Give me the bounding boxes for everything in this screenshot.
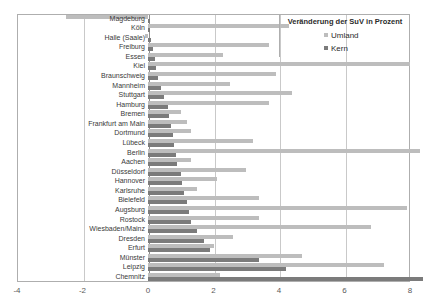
bar-kern (148, 143, 174, 147)
category-label: Kiel (133, 62, 145, 70)
x-tick-label: 6 (342, 286, 346, 295)
x-tick-label: 8 (408, 286, 412, 295)
x-axis: -4-202468 (0, 282, 424, 308)
category-label: Halle (Saale) (105, 34, 145, 42)
bar-kern (148, 76, 158, 80)
chart-container: MagdeburgKölnHalle (Saale)FreiburgEssenK… (0, 0, 424, 308)
bar-kern (148, 210, 189, 214)
bar-umland (148, 43, 269, 47)
bar-kern (148, 19, 150, 23)
x-tick-label: 0 (146, 286, 150, 295)
bar-kern (148, 220, 191, 224)
category-label: Augsburg (115, 206, 145, 214)
legend-item-kern[interactable]: Kern (324, 44, 348, 53)
category-axis-labels: MagdeburgKölnHalle (Saale)FreiburgEssenK… (0, 14, 148, 282)
x-tick-label: -4 (13, 286, 20, 295)
bar-kern (148, 258, 259, 262)
x-tick-label: 4 (277, 286, 281, 295)
category-label: Köln (131, 24, 145, 32)
category-label: Wiesbaden/Mainz (89, 225, 145, 233)
category-label: Karlsruhe (115, 187, 145, 195)
legend-item-umland[interactable]: Umland (324, 31, 359, 40)
bar-kern (148, 162, 177, 166)
bar-kern (148, 229, 197, 233)
bar-umland (148, 72, 276, 76)
category-label: Düsseldorf (112, 168, 145, 176)
bar-umland (148, 53, 223, 57)
x-tick-label: -2 (79, 286, 86, 295)
bar-kern (148, 153, 176, 157)
bar-kern (148, 105, 168, 109)
category-label: Leipzig (123, 263, 145, 271)
category-label: Münster (120, 254, 145, 262)
category-label: Essen (126, 53, 145, 61)
bar-kern (148, 133, 173, 137)
legend-label-umland: Umland (331, 31, 359, 40)
category-label: Aachen (121, 158, 145, 166)
legend-title: Veränderung der SuV in Prozent (279, 17, 411, 26)
category-label: Chemnitz (115, 273, 145, 281)
bar-kern (148, 95, 164, 99)
category-label: Stuttgart (119, 91, 145, 99)
bar-umland (148, 24, 289, 28)
bar-kern (148, 66, 156, 70)
bar-kern (148, 191, 184, 195)
legend-label-kern: Kern (331, 44, 348, 53)
bar-kern (148, 28, 150, 32)
bar-kern (148, 239, 204, 243)
bar-kern (148, 277, 423, 281)
category-label: Magdeburg (110, 15, 145, 23)
bar-kern (148, 124, 171, 128)
category-label: Hannover (115, 177, 145, 185)
legend: Veränderung der SuV in Prozent Umland Ke… (279, 14, 410, 57)
legend-swatch-umland (324, 33, 328, 37)
category-label: Berlin (127, 149, 145, 157)
category-label: Mannheim (112, 82, 145, 90)
legend-swatch-kern (324, 46, 328, 50)
category-label: Bielefeld (118, 196, 145, 204)
category-label: Freiburg (119, 43, 145, 51)
bar-kern (148, 114, 169, 118)
bar-kern (148, 248, 210, 252)
category-label: Lübeck (122, 139, 145, 147)
category-label: Hamburg (116, 101, 145, 109)
category-label: Braunschweig (101, 72, 145, 80)
bar-kern (148, 181, 182, 185)
category-label: Rostock (120, 216, 145, 224)
x-tick-label: 2 (211, 286, 215, 295)
bar-umland (148, 91, 292, 95)
bar-kern (148, 38, 151, 42)
category-label: Frankfurt am Main (88, 120, 145, 128)
bar-kern (148, 86, 161, 90)
category-label: Dortmund (114, 129, 145, 137)
bar-kern (148, 172, 181, 176)
bar-kern (148, 47, 153, 51)
bar-kern (148, 200, 187, 204)
category-label: Dresden (119, 235, 145, 243)
category-label: Erfurt (128, 244, 145, 252)
bar-umland (148, 62, 410, 66)
bar-kern (148, 57, 155, 61)
bar-kern (148, 267, 286, 271)
category-label: Bremen (120, 110, 145, 118)
bar-umland (148, 149, 420, 153)
